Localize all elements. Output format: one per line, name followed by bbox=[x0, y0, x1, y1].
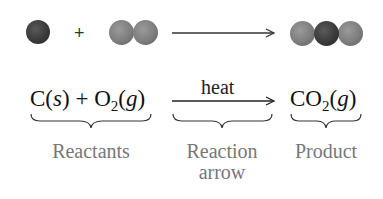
co2-oxygen-atom-1 bbox=[290, 21, 315, 46]
oxygen-symbol: O bbox=[94, 86, 111, 111]
equation-reaction-arrow bbox=[172, 97, 274, 105]
top-reaction-arrow bbox=[172, 29, 274, 37]
reaction-arrow-brace bbox=[173, 114, 272, 128]
co2-carbon-atom bbox=[314, 21, 339, 46]
product-formula: CO2(g) bbox=[290, 87, 356, 110]
oxygen-subscript: 2 bbox=[111, 98, 119, 114]
oxygen-state: g bbox=[126, 86, 138, 111]
reaction-condition-heat: heat bbox=[201, 77, 234, 97]
reactants-formula: C(s) + O2(g) bbox=[30, 87, 145, 110]
product-label: Product bbox=[283, 141, 369, 161]
carbon-state: s bbox=[53, 86, 62, 111]
reaction-arrow-label-line2: arrow bbox=[170, 162, 274, 182]
carbon-symbol: C bbox=[30, 86, 45, 111]
co2-symbol: CO bbox=[290, 86, 322, 111]
co2-state: g bbox=[337, 86, 349, 111]
product-brace bbox=[291, 114, 361, 128]
co2-oxygen-atom-2 bbox=[338, 21, 363, 46]
reactants-brace bbox=[31, 114, 151, 128]
co2-subscript: 2 bbox=[322, 98, 330, 114]
reaction-arrow-label-line1: Reaction bbox=[170, 141, 274, 161]
reactants-label: Reactants bbox=[31, 141, 151, 161]
equation-plus: + bbox=[75, 86, 88, 111]
